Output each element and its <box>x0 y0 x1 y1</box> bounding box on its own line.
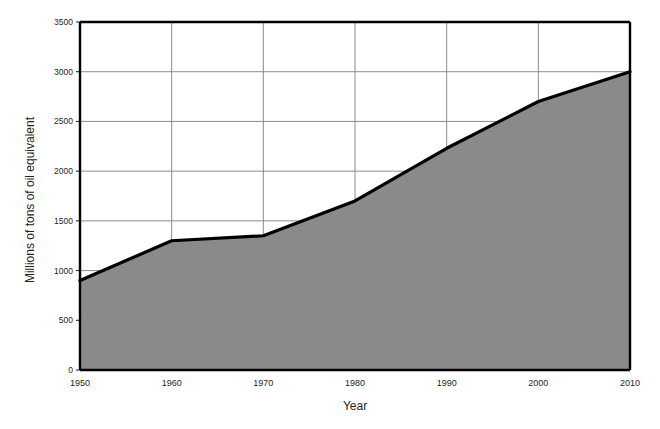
x-tick-label: 1960 <box>162 378 182 388</box>
y-tick-label: 0 <box>68 365 73 375</box>
y-tick-label: 3500 <box>54 17 73 27</box>
y-axis-title: Millions of tons of oil equivalent <box>23 116 37 283</box>
x-tick-label: 2010 <box>620 378 640 388</box>
y-tick-label: 2500 <box>54 116 73 126</box>
y-tick-label: 1500 <box>54 216 73 226</box>
x-tick-label: 1970 <box>253 378 273 388</box>
x-tick-label: 1980 <box>345 378 365 388</box>
y-tick-label: 1000 <box>54 266 73 276</box>
y-tick-label: 500 <box>59 315 73 325</box>
y-tick-label: 3000 <box>54 67 73 77</box>
area-chart: 0500100015002000250030003500 19501960197… <box>0 0 660 429</box>
x-axis-title: Year <box>343 399 367 413</box>
y-tick-label: 2000 <box>54 166 73 176</box>
chart-container: 0500100015002000250030003500 19501960197… <box>0 0 660 429</box>
x-tick-label: 2000 <box>528 378 548 388</box>
x-tick-label: 1990 <box>437 378 457 388</box>
x-tick-label: 1950 <box>70 378 90 388</box>
